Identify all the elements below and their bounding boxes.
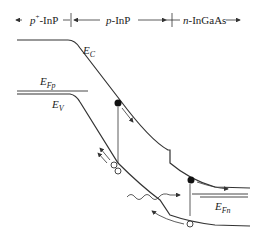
- band-diagram: p+-InP p-InP n-InGaAs EC EFp EV EFn: [0, 0, 261, 236]
- label-efp: EFp: [39, 75, 56, 90]
- label-ev: EV: [51, 98, 65, 113]
- label-efn: EFn: [214, 200, 231, 215]
- electron-n-region: [188, 177, 195, 184]
- hole-p-region-1: [111, 162, 117, 168]
- hole-p-region-2: [115, 168, 121, 174]
- region-label-p-inp: p-InP: [105, 14, 130, 26]
- region-label-n-ingaas: n-InGaAs: [183, 14, 226, 26]
- conduction-band: [17, 40, 250, 188]
- region-label-p-plus-inp: p+-InP: [29, 13, 58, 26]
- electron-p-region: [115, 100, 122, 107]
- hole-n-region: [187, 221, 193, 227]
- region-header: p+-InP p-InP n-InGaAs: [16, 13, 240, 27]
- label-ec: EC: [82, 44, 96, 59]
